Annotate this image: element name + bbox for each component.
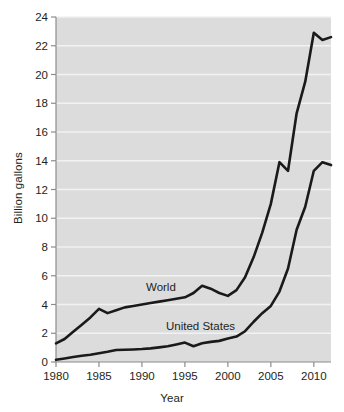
x-tick-label: 1990 (129, 370, 155, 382)
x-tick-label: 2005 (258, 370, 284, 382)
chart-container: 024681012141618202224 198019851990199520… (0, 0, 344, 412)
x-tick-label: 1985 (86, 370, 112, 382)
x-tick-label: 2000 (215, 370, 241, 382)
x-tick-label: 1995 (172, 370, 198, 382)
series-label-united-states: United States (166, 320, 235, 332)
x-tick-labels: 1980198519901995200020052010 (0, 0, 344, 412)
x-tick-label: 1980 (43, 370, 69, 382)
x-tick-label: 2010 (301, 370, 327, 382)
x-axis-title: Year (0, 392, 344, 404)
series-label-world: World (146, 281, 176, 293)
y-axis-title: Billion gallons (12, 143, 24, 233)
